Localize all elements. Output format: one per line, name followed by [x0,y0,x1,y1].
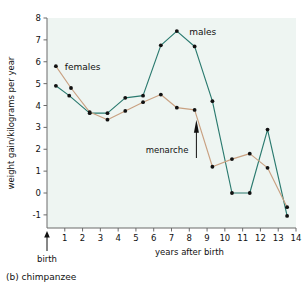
birth-arrow-head [44,231,50,238]
data-point-males [123,96,127,100]
x-tick-label: 1 [62,233,67,243]
x-tick-label: 5 [133,233,138,243]
menarche-label: menarche [146,145,189,155]
x-tick-label: 4 [115,233,120,243]
data-point-females [123,109,127,113]
x-tick-label: 9 [204,233,209,243]
y-tick-label: -1 [33,210,41,220]
data-point-females [159,93,163,97]
data-point-males [230,191,234,195]
x-tick-label: 2 [80,233,85,243]
data-point-males [175,29,179,33]
data-point-females [106,118,110,122]
data-point-males [106,111,110,115]
y-tick-label: 5 [36,79,41,89]
data-point-females [175,106,179,110]
data-point-males [193,45,197,49]
weight-gain-line-chart: 876543210-1 1234567891011121314 males fe… [0,0,306,289]
data-point-males [159,43,163,47]
data-point-females [211,165,215,169]
x-tick-label: 7 [169,233,174,243]
data-point-females [230,157,234,161]
birth-label: birth [37,254,57,264]
y-tick-label: 6 [36,57,41,67]
data-point-males [67,94,71,98]
x-tick-label: 8 [187,233,192,243]
x-axis-title: years after birth [155,247,224,257]
data-point-females [193,108,197,112]
y-tick-label: 3 [36,122,41,132]
figure-container: 876543210-1 1234567891011121314 males fe… [0,0,306,289]
x-tick-label: 12 [255,233,266,243]
y-tick-label: 0 [36,188,41,198]
data-point-females [248,152,252,156]
figure-caption: (b) chimpanzee [6,272,77,282]
x-tick-label: 14 [291,233,302,243]
y-tick-label: 2 [36,144,41,154]
data-point-females [54,64,58,68]
series-label-females: females [65,62,101,72]
x-tick-label: 3 [98,233,103,243]
data-point-females [266,166,270,170]
x-tick-label: 11 [237,233,248,243]
data-point-males [141,94,145,98]
y-axis-title: weight gain/kilograms per year [6,56,16,189]
data-point-females [141,100,145,104]
y-tick-label: 8 [36,13,41,23]
x-tick-label: 6 [151,233,156,243]
x-axis: 1234567891011121314 [47,228,301,243]
x-tick-label: 10 [219,233,230,243]
y-tick-label: 1 [36,166,41,176]
data-point-females [88,110,92,114]
y-tick-label: 7 [36,35,41,45]
data-point-males [248,191,252,195]
y-axis-ticks: 876543210-1 [33,13,47,220]
data-point-males [54,84,58,88]
data-point-females [285,205,289,209]
data-point-males [266,128,270,132]
data-point-males [285,214,289,218]
data-point-males [211,99,215,103]
birth-annotation: birth [37,231,57,264]
x-axis-ticks: 1234567891011121314 [62,228,301,243]
y-tick-label: 4 [36,101,41,111]
data-point-females [69,86,73,90]
y-axis: 876543210-1 [33,13,47,228]
series-label-males: males [189,27,216,37]
x-tick-label: 13 [273,233,284,243]
plot-background [47,18,296,228]
